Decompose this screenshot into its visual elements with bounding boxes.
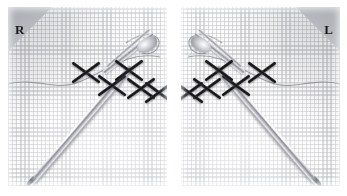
stereo-panel-left: L	[181, 7, 340, 186]
cross-stitch	[144, 80, 167, 106]
stereo-image-pair: R	[0, 0, 347, 196]
stereo-panel-right: R	[8, 7, 167, 186]
panel-label-right: R	[15, 23, 24, 36]
cross-stitch	[181, 80, 204, 106]
panel-right-artwork: R	[8, 7, 167, 186]
cross-stitch	[247, 60, 277, 86]
panel-left-artwork: L	[181, 7, 340, 186]
panel-label-left: L	[324, 23, 333, 36]
